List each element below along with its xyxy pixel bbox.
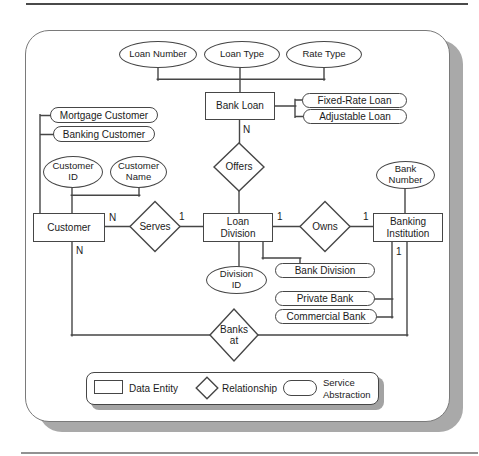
attribute-customer-id: Customer ID — [43, 156, 103, 188]
legend-service-abstraction-label: Service Abstraction — [323, 373, 371, 404]
relationship-banks-at-label: Banks at — [204, 324, 264, 346]
abstraction-mortgage-customer: Mortgage Customer — [50, 107, 158, 123]
relationship-owns-label: Owns — [295, 221, 355, 232]
figure-stage: Loan Number Loan Type Rate Type Customer… — [0, 0, 479, 456]
abstraction-banking-customer: Banking Customer — [53, 126, 155, 142]
cardinality-customer-banks-at: N — [76, 245, 83, 256]
attribute-loan-type: Loan Type — [204, 41, 280, 68]
cardinality-loan-division-owns: 1 — [277, 211, 283, 222]
entity-loan-division: Loan Division — [203, 213, 273, 242]
cardinality-customer-serves: N — [109, 212, 116, 223]
cardinality-banking-institution-banks-at: 1 — [396, 246, 402, 257]
attribute-rate-type: Rate Type — [286, 41, 362, 68]
legend-entity-swatch — [94, 380, 123, 394]
attribute-bank-number: Bank Number — [376, 161, 435, 189]
attribute-division-id: Division ID — [206, 266, 267, 294]
abstraction-commercial-bank: Commercial Bank — [275, 309, 377, 324]
relationship-offers-label: Offers — [209, 161, 269, 172]
abstraction-private-bank: Private Bank — [275, 291, 375, 306]
abstraction-fixed-rate-loan: Fixed-Rate Loan — [302, 93, 407, 108]
attribute-customer-name: Customer Name — [110, 156, 167, 188]
cardinality-bank-loan-offers: N — [243, 124, 250, 135]
abstraction-bank-division: Bank Division — [275, 263, 375, 278]
legend-box: Data Entity Relationship Service Abstrac… — [86, 372, 379, 405]
cardinality-serves-loan-division: 1 — [179, 211, 185, 222]
entity-bank-loan: Bank Loan — [205, 92, 275, 120]
entity-banking-institution: Banking Institution — [373, 213, 443, 242]
entity-customer: Customer — [33, 213, 105, 242]
legend-relationship-label: Relationship — [222, 373, 277, 404]
cardinality-owns-banking-institution: 1 — [363, 211, 369, 222]
legend-abstraction-swatch — [283, 380, 317, 396]
legend-relationship-swatch — [195, 376, 219, 400]
abstraction-adjustable-loan: Adjustable Loan — [303, 109, 407, 124]
legend-data-entity-label: Data Entity — [129, 373, 178, 404]
relationship-serves-label: Serves — [125, 221, 185, 232]
attribute-loan-number: Loan Number — [119, 41, 197, 68]
